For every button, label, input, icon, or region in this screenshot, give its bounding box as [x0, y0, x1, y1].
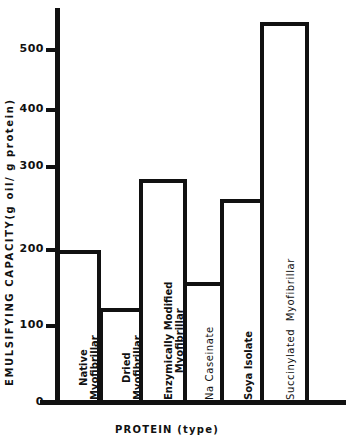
y-tick-label-300: 300 — [4, 159, 44, 172]
bar-label: Soya Isolate — [242, 331, 253, 400]
bar-label: Enzymically Modified Myofibrillar — [163, 282, 185, 400]
bar-enzymically-modified-myofibrillar: Enzymically Modified Myofibrillar — [139, 179, 187, 402]
y-axis-line — [55, 8, 60, 405]
y-tick-label-500: 500 — [4, 42, 44, 55]
bar-native-myofibrillar: Native Myofibrillar — [55, 250, 101, 402]
bar-dried-myofibrillar: Dried Myofibrillar — [99, 308, 143, 402]
bar-succinylated-myofibrillar: Succinylated Myofibrillar — [260, 22, 309, 402]
x-axis-title: PROTEIN (type) — [115, 424, 219, 435]
y-tick-label-100: 100 — [4, 318, 44, 331]
bar-label: Native Myofibrillar — [78, 335, 100, 400]
y-tick-label-400: 400 — [4, 102, 44, 115]
bar-label: Succinylated Myofibrillar — [285, 258, 296, 400]
bar-label: Na Caseinate — [204, 326, 215, 400]
bar-na-caseinate: Na Caseinate — [183, 282, 224, 402]
bar-soya-isolate: Soya Isolate — [220, 199, 264, 402]
y-tick-label-200: 200 — [4, 242, 44, 255]
y-tick-label-0: 0 — [4, 395, 44, 408]
emulsifying-capacity-bar-chart: EMULSIFYING CAPACITY(g oil/ g protein) 0… — [0, 0, 352, 439]
x-axis-line — [40, 400, 346, 405]
